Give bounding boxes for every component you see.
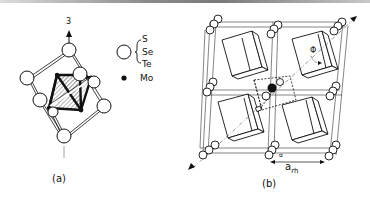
chalcogen-atom — [330, 27, 338, 35]
mo6-octahedron — [47, 73, 94, 113]
legend-species-se: Se — [142, 47, 154, 57]
chalcogen-atom — [262, 92, 270, 100]
chalcogen-atom — [20, 71, 34, 85]
chalcogen-atom — [62, 43, 76, 57]
chalcogen-atom — [265, 151, 273, 159]
lattice-parameter-subscript: rh — [291, 167, 298, 175]
legend: S Se Te Mo — [117, 34, 154, 83]
legend-species-s: S — [142, 34, 148, 44]
diagonal-arrow-bottom — [188, 163, 195, 170]
panel-a: 3 — [20, 17, 154, 184]
chalcogen-atom — [203, 88, 211, 96]
cluster-cube-bottom-left — [218, 94, 264, 141]
lattice-parameter-label: arh — [285, 161, 298, 175]
panel-b-caption: (b) — [262, 178, 276, 189]
chalcogen-atom — [325, 152, 333, 160]
chalcogen-atom — [97, 99, 111, 113]
mo-atom — [79, 108, 84, 113]
panel-a-caption: (a) — [52, 173, 66, 184]
cluster-cube-top-left — [222, 31, 268, 79]
legend-brace — [135, 40, 141, 63]
chalcogen-atom — [88, 76, 100, 88]
diagonal-arrow-top — [350, 16, 357, 22]
legend-filled-circle — [121, 75, 126, 80]
chalcogen-atom — [277, 79, 284, 86]
chalcogen-atom — [206, 26, 214, 34]
chalcogen-atom — [33, 93, 47, 107]
chalcogen-atom — [48, 107, 58, 117]
central-mo-cluster-atom — [268, 84, 277, 93]
mo-atom — [55, 73, 59, 77]
axis-label: 3 — [66, 17, 71, 26]
alpha-angle-label: α — [279, 151, 283, 158]
lattice-parameter-dimension — [270, 160, 325, 164]
legend-species-mo: Mo — [140, 73, 154, 83]
chalcogen-atom — [267, 30, 275, 38]
figure-canvas: 3 — [0, 0, 370, 203]
chalcogen-atom — [199, 151, 207, 159]
legend-species-te: Te — [141, 59, 152, 69]
panel-b: Φ α arh (b) — [188, 15, 357, 189]
chalcogen-atom — [326, 92, 334, 100]
chalcogen-atom — [57, 129, 71, 143]
legend-open-circle — [117, 45, 131, 59]
cluster-cube-bottom-right — [282, 97, 328, 143]
chalcogen-atom — [73, 67, 87, 81]
phi-angle-label: Φ — [310, 46, 316, 55]
